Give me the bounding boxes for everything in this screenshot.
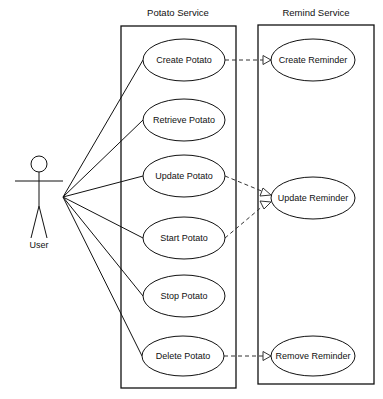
arrowhead-icon — [260, 188, 271, 196]
use-case-start-potato[interactable]: Start Potato — [143, 217, 225, 259]
use-case-label: Update Potato — [155, 171, 213, 181]
use-case-label: Update Reminder — [278, 193, 349, 203]
associations — [63, 60, 143, 356]
use-case-label: Create Potato — [156, 55, 212, 65]
use-case-stop-potato[interactable]: Stop Potato — [143, 275, 225, 317]
system-title: Potato Service — [147, 7, 209, 18]
use-case-update-reminder[interactable]: Update Reminder — [271, 177, 355, 219]
arrowheads — [260, 56, 271, 361]
actor-label: User — [29, 240, 48, 250]
use-case-remove-reminder[interactable]: Remove Reminder — [271, 336, 355, 376]
actor-head-icon — [31, 156, 47, 172]
use-case-label: Retrieve Potato — [153, 115, 215, 125]
use-case-label: Stop Potato — [160, 291, 207, 301]
use-case-label: Start Potato — [160, 233, 208, 243]
system-title: Remind Service — [282, 7, 349, 18]
use-case-retrieve-potato[interactable]: Retrieve Potato — [143, 99, 225, 141]
use-case-label: Remove Reminder — [275, 351, 350, 361]
use-case-update-potato[interactable]: Update Potato — [143, 155, 225, 197]
arrowhead-icon — [263, 56, 271, 65]
use-case-label: Create Reminder — [279, 55, 348, 65]
actor-user[interactable] — [15, 156, 63, 238]
use-case-create-reminder[interactable]: Create Reminder — [271, 39, 355, 81]
use-case-label: Delete Potato — [156, 351, 211, 361]
use-case-diagram: Potato Service Remind Service User — [0, 0, 383, 399]
arrowhead-icon — [263, 352, 271, 361]
use-case-delete-potato[interactable]: Delete Potato — [142, 336, 224, 376]
use-case-create-potato[interactable]: Create Potato — [143, 39, 225, 81]
arrowhead-icon — [260, 201, 271, 209]
